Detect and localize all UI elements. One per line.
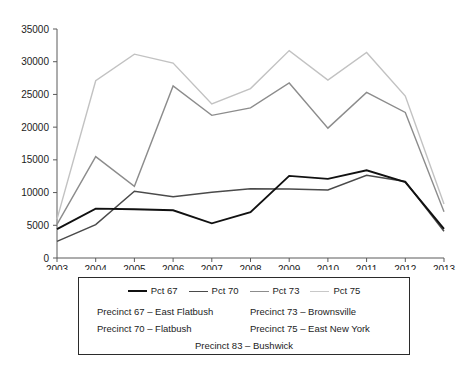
x-tick-label: 2012 — [394, 264, 417, 270]
legend-name-row: Precinct 67 – East FlatbushPrecinct 73 –… — [93, 303, 395, 320]
y-tick-label: 0 — [43, 253, 49, 264]
x-axis: 2003200420052006200720082009201020112012… — [46, 258, 456, 270]
x-tick-label: 2006 — [162, 264, 185, 270]
x-tick-label-group: 2003200420052006200720082009201020112012… — [46, 264, 456, 270]
legend-precinct-name: Precinct 70 – Flatbush — [93, 323, 242, 334]
y-tick-label: 25000 — [21, 89, 49, 100]
legend-precinct-names: Precinct 67 – East FlatbushPrecinct 73 –… — [79, 301, 409, 354]
legend-entry-pct-73[interactable]: Pct 73 — [250, 286, 300, 296]
x-tick-label: 2005 — [123, 264, 146, 270]
x-tick-label: 2007 — [201, 264, 224, 270]
legend-entry-label: Pct 75 — [333, 286, 360, 296]
x-tick-label: 2008 — [239, 264, 262, 270]
legend-entry-pct-75[interactable]: Pct 75 — [310, 286, 360, 296]
legend: Pct 67Pct 70Pct 73Pct 75 Precinct 67 – E… — [78, 277, 410, 355]
y-tick-label: 30000 — [21, 56, 49, 67]
legend-name-row: Precinct 83 – Bushwick — [93, 337, 395, 354]
series-group — [57, 51, 444, 242]
y-tick-label: 10000 — [21, 187, 49, 198]
y-tick-label: 15000 — [21, 154, 49, 165]
y-axis: 05000100001500020000250003000035000 — [21, 24, 57, 264]
series-line-pct-73 — [57, 83, 444, 224]
legend-line-swatch — [128, 290, 147, 292]
legend-entry-pct-67[interactable]: Pct 67 — [128, 286, 178, 296]
series-line-pct-67 — [57, 170, 444, 229]
legend-precinct-name: Precinct 83 – Bushwick — [195, 340, 293, 351]
legend-entry-label: Pct 67 — [151, 286, 178, 296]
y-tick-group — [53, 29, 57, 258]
legend-entry-label: Pct 73 — [273, 286, 300, 296]
y-tick-label-group: 05000100001500020000250003000035000 — [21, 24, 49, 264]
plot-area: 05000100001500020000250003000035000 2003… — [0, 0, 456, 270]
legend-entry-label: Pct 70 — [212, 286, 239, 296]
legend-line-swatch — [310, 291, 329, 292]
line-chart: 05000100001500020000250003000035000 2003… — [0, 0, 456, 387]
y-tick-label: 20000 — [21, 122, 49, 133]
legend-precinct-name: Precinct 67 – East Flatbush — [93, 306, 242, 317]
x-tick-label: 2003 — [46, 264, 69, 270]
x-tick-label: 2013 — [433, 264, 456, 270]
y-tick-label: 5000 — [27, 220, 50, 231]
x-tick-group — [57, 258, 444, 262]
legend-precinct-name: Precinct 73 – Brownsville — [242, 306, 395, 317]
legend-entry-pct-70[interactable]: Pct 70 — [189, 286, 239, 296]
legend-line-swatch — [250, 291, 269, 292]
x-tick-label: 2009 — [278, 264, 301, 270]
x-tick-label: 2011 — [356, 264, 378, 270]
legend-line-swatch — [189, 291, 208, 292]
y-tick-label: 35000 — [21, 24, 49, 35]
legend-series-row: Pct 67Pct 70Pct 73Pct 75 — [79, 281, 409, 301]
legend-precinct-name: Precinct 75 – East New York — [242, 323, 395, 334]
legend-name-row: Precinct 70 – FlatbushPrecinct 75 – East… — [93, 320, 395, 337]
series-line-pct-75 — [57, 51, 444, 219]
x-tick-label: 2010 — [317, 264, 340, 270]
x-tick-label: 2004 — [85, 264, 108, 270]
